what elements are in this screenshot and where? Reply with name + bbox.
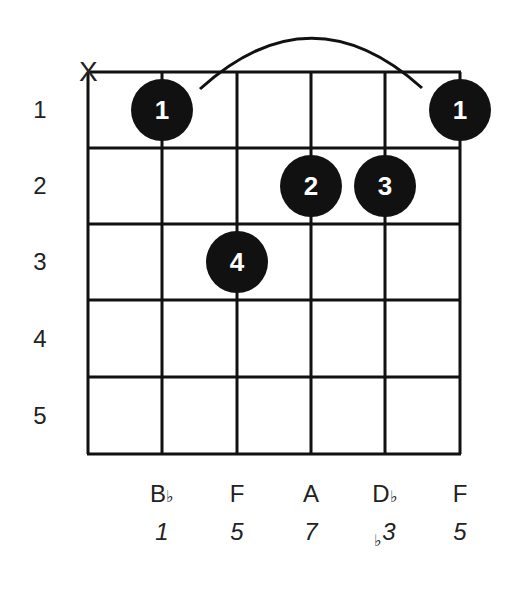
finger-dot: 1 [131, 79, 193, 141]
finger-dot: 4 [206, 231, 268, 293]
interval-label: 1 [137, 520, 187, 544]
note-name-label: A [286, 482, 336, 506]
interval-label: ♭3 [360, 520, 410, 553]
interval-label: 5 [435, 520, 485, 544]
note-name-label: D♭ [360, 482, 410, 509]
chord-diagram: 12345X11234B♭1F5A7D♭♭3F5 [0, 0, 519, 591]
fret-number-label: 4 [20, 327, 60, 351]
finger-dot: 3 [354, 155, 416, 217]
interval-label: 5 [212, 520, 262, 544]
fret-number-label: 1 [20, 98, 60, 122]
finger-dot: 1 [429, 79, 491, 141]
flat-symbol: ♭ [390, 488, 398, 505]
fret-number-label: 3 [20, 250, 60, 274]
note-name-label: F [212, 482, 262, 506]
flat-symbol: ♭ [166, 488, 174, 505]
note-name-label: F [435, 482, 485, 506]
note-name-label: B♭ [137, 482, 187, 509]
fret-number-label: 2 [20, 174, 60, 198]
fret-number-label: 5 [20, 404, 60, 428]
finger-dot: 2 [280, 155, 342, 217]
muted-string-marker: X [79, 58, 98, 86]
flat-symbol: ♭ [374, 532, 382, 549]
interval-label: 7 [286, 520, 336, 544]
